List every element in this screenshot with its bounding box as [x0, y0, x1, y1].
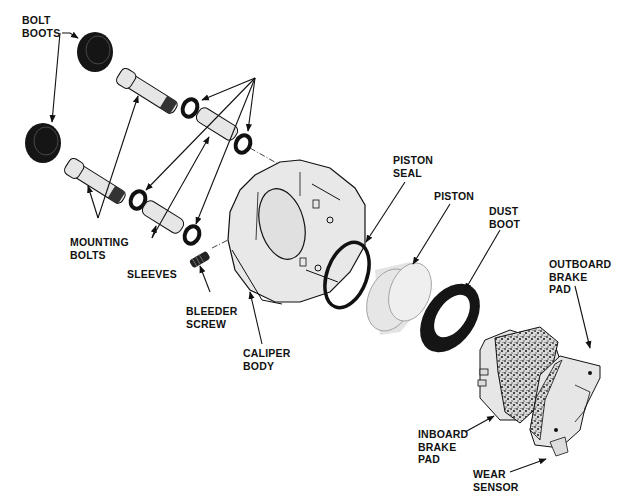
sleeve-lower [140, 199, 186, 236]
label-dust-boot: DUST BOOT [489, 205, 520, 230]
label-caliper-body: CALIPER BODY [243, 347, 291, 372]
label-wear-sensor: WEAR SENSOR [473, 468, 519, 493]
sleeve-upper [194, 106, 240, 143]
label-mounting-bolts: MOUNTING BOLTS [70, 236, 129, 261]
bolt-boot-lower [25, 123, 61, 163]
label-bleeder-screw: BLEEDER SCREW [186, 305, 238, 330]
bushing-4 [182, 224, 202, 246]
label-outboard-brake-pad: OUTBOARD BRAKE PAD [549, 258, 611, 296]
bleeder-screw [189, 251, 211, 269]
label-inboard-brake-pad: INBOARD BRAKE PAD [418, 428, 468, 466]
label-piston: PISTON [434, 190, 474, 203]
caliper-body [228, 160, 365, 304]
label-sleeves: SLEEVES [127, 268, 177, 281]
bushing-2 [233, 133, 253, 155]
bolt-boot-upper [77, 32, 113, 72]
mounting-bolt-upper [115, 67, 181, 117]
label-piston-seal: PISTON SEAL [393, 154, 433, 179]
label-bolt-boots: BOLT BOOTS [22, 14, 60, 39]
mounting-bolt-lower [63, 157, 129, 207]
